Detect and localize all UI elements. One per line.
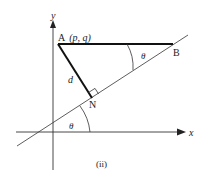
point-N-label: N xyxy=(89,99,96,110)
point-B-label: B xyxy=(173,47,180,58)
y-axis-label: y xyxy=(50,10,56,21)
point-A-name: A xyxy=(58,32,66,43)
angle-arc-B xyxy=(127,44,133,70)
figure-caption: (ii) xyxy=(96,159,107,169)
y-axis-arrow xyxy=(50,20,56,28)
angle-theta-B-label: θ xyxy=(141,51,146,61)
x-axis-arrow xyxy=(177,129,186,136)
inclined-line xyxy=(17,35,188,146)
diagram: y x A (p, q) B N d θ θ (ii) xyxy=(0,0,204,185)
point-A-label: A (p, q) xyxy=(58,32,92,44)
segment-d-label: d xyxy=(68,74,74,85)
angle-theta-x-axis-label: θ xyxy=(69,121,74,131)
segment-AN xyxy=(58,44,92,98)
point-A-coords: (p, q) xyxy=(69,32,91,44)
x-axis-label: x xyxy=(188,127,194,138)
